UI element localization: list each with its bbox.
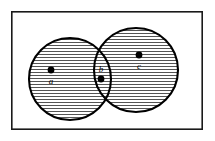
point-b-label: b [99, 64, 104, 74]
venn-diagram-figure: a b c [0, 0, 215, 141]
point-c-dot [136, 52, 143, 59]
point-c-label: c [137, 61, 141, 71]
point-a-label: a [49, 76, 54, 86]
venn-diagram-canvas: a b c [0, 0, 215, 141]
point-b-dot [98, 76, 105, 83]
point-a-dot [48, 67, 55, 74]
